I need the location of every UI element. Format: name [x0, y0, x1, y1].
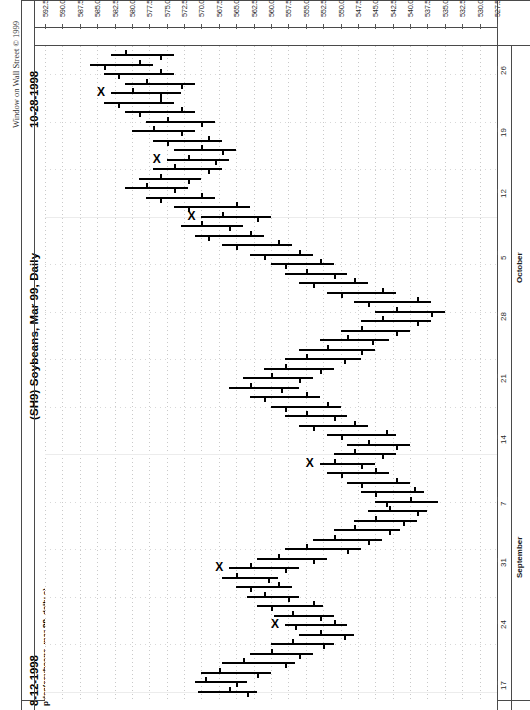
ohlc-bar[interactable]	[334, 525, 400, 535]
ohlc-bar[interactable]	[354, 516, 417, 526]
ohlc-bar[interactable]	[247, 592, 299, 602]
ohlc-bar[interactable]	[327, 430, 397, 440]
ohlc-bar[interactable]	[320, 335, 390, 345]
ohlc-bar[interactable]	[153, 136, 223, 146]
ohlc-bar[interactable]	[264, 364, 334, 374]
price-tick	[45, 24, 46, 29]
ohlc-open-tick	[313, 601, 315, 606]
ohlc-bar[interactable]	[90, 60, 153, 70]
ohlc-bar[interactable]	[299, 421, 369, 431]
ohlc-bar[interactable]	[368, 506, 427, 516]
ohlc-bar[interactable]	[334, 449, 397, 459]
ohlc-close-tick	[313, 283, 315, 288]
ohlc-bar[interactable]	[285, 620, 348, 630]
price-tick	[115, 24, 116, 29]
gridline-vertical	[393, 46, 394, 701]
ohlc-bar[interactable]	[250, 649, 313, 659]
ohlc-bar[interactable]	[236, 582, 292, 592]
date-tick-label: 7	[499, 501, 508, 505]
ohlc-open-tick	[334, 535, 336, 540]
ohlc-open-tick	[205, 677, 207, 682]
ohlc-bar[interactable]	[285, 269, 348, 279]
ohlc-bar[interactable]	[250, 392, 320, 402]
ohlc-bar[interactable]	[347, 440, 410, 450]
price-tick	[97, 24, 98, 29]
ohlc-bar[interactable]	[201, 668, 271, 678]
ohlc-bar[interactable]	[167, 155, 230, 165]
ohlc-range	[341, 330, 411, 332]
ohlc-bar[interactable]	[132, 126, 195, 136]
ohlc-open-tick	[181, 107, 183, 112]
ohlc-bar[interactable]	[198, 687, 257, 697]
signal-x-marker[interactable]: X	[306, 458, 314, 468]
ohlc-bar[interactable]	[174, 145, 237, 155]
ohlc-bar[interactable]	[274, 611, 333, 621]
ohlc-bar[interactable]	[222, 240, 292, 250]
ohlc-bar[interactable]	[271, 259, 334, 269]
ohlc-bar[interactable]	[243, 373, 313, 383]
ohlc-bar[interactable]	[104, 98, 174, 108]
ohlc-bar[interactable]	[257, 554, 327, 564]
ohlc-close-tick	[344, 635, 346, 640]
ohlc-bar[interactable]	[229, 383, 299, 393]
ohlc-bar[interactable]	[125, 107, 195, 117]
ohlc-bar[interactable]	[139, 174, 202, 184]
signal-x-marker[interactable]: X	[153, 154, 161, 164]
ohlc-bar[interactable]	[285, 544, 361, 554]
ohlc-bar[interactable]	[104, 69, 174, 79]
ohlc-bar[interactable]	[375, 307, 445, 317]
ohlc-range	[299, 425, 369, 427]
ohlc-bar[interactable]	[125, 183, 188, 193]
ohlc-bar[interactable]	[285, 354, 361, 364]
ohlc-bar[interactable]	[361, 316, 431, 326]
signal-x-marker[interactable]: X	[97, 87, 105, 97]
ohlc-bar[interactable]	[299, 630, 355, 640]
ohlc-open-tick	[382, 288, 384, 293]
ohlc-bar[interactable]	[271, 639, 334, 649]
ohlc-bar[interactable]	[222, 573, 278, 583]
plot-area[interactable]: XXXXXX	[45, 46, 497, 701]
ohlc-bar[interactable]	[174, 202, 250, 212]
ohlc-bar[interactable]	[375, 497, 438, 507]
ohlc-bar[interactable]	[299, 278, 369, 288]
ohlc-bar[interactable]	[327, 288, 397, 298]
ohlc-bar[interactable]	[195, 677, 247, 687]
ohlc-bar[interactable]	[125, 79, 195, 89]
ohlc-bar[interactable]	[201, 212, 271, 222]
ohlc-bar[interactable]	[299, 345, 375, 355]
ohlc-bar[interactable]	[257, 601, 323, 611]
ohlc-open-tick	[354, 449, 356, 454]
ohlc-range	[132, 130, 195, 132]
ohlc-bar[interactable]	[111, 88, 181, 98]
ohlc-range	[354, 520, 417, 522]
ohlc-bar[interactable]	[354, 297, 430, 307]
ohlc-bar[interactable]	[229, 563, 299, 573]
price-tick	[219, 24, 220, 29]
ohlc-bar[interactable]	[313, 535, 383, 545]
ohlc-bar[interactable]	[271, 402, 341, 412]
ohlc-bar[interactable]	[153, 164, 223, 174]
signal-x-marker[interactable]: X	[215, 562, 223, 572]
ohlc-bar[interactable]	[320, 459, 376, 469]
ohlc-bar[interactable]	[327, 468, 390, 478]
ohlc-bar[interactable]	[222, 658, 295, 668]
ohlc-bar[interactable]	[361, 487, 424, 497]
ohlc-range	[285, 415, 348, 417]
ohlc-open-tick	[271, 373, 273, 378]
ohlc-bar[interactable]	[146, 193, 216, 203]
gridline-vertical	[236, 46, 237, 701]
ohlc-bar[interactable]	[250, 250, 313, 260]
gridline-vertical	[132, 46, 133, 701]
ohlc-bar[interactable]	[111, 50, 174, 60]
ohlc-bar[interactable]	[347, 478, 410, 488]
ohlc-range	[250, 653, 313, 655]
ohlc-bar[interactable]	[195, 231, 265, 241]
ohlc-open-tick	[306, 354, 308, 359]
ohlc-bar[interactable]	[181, 221, 244, 231]
ohlc-bar[interactable]	[341, 326, 411, 336]
ohlc-bar[interactable]	[285, 411, 348, 421]
ohlc-bar[interactable]	[146, 117, 216, 127]
ohlc-range	[139, 178, 202, 180]
ohlc-close-tick	[320, 616, 322, 621]
ohlc-close-tick	[334, 416, 336, 421]
